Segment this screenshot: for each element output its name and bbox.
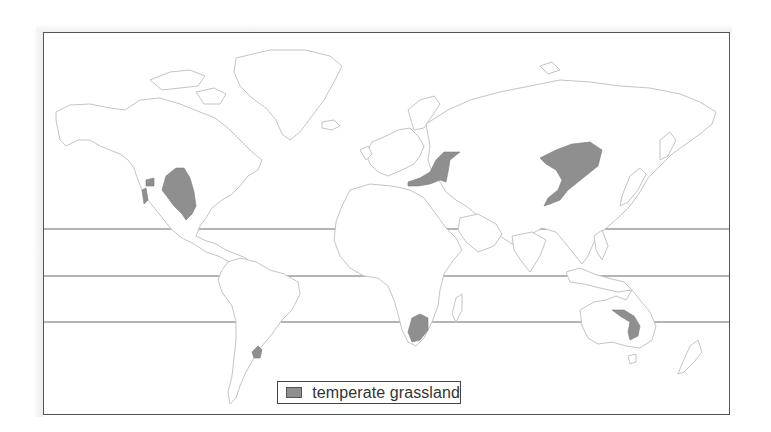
new-zealand-outline: [678, 340, 702, 374]
iceland-outline: [322, 120, 340, 130]
southeast-asia-islands-outline: [566, 268, 632, 292]
europe-outline: [366, 128, 424, 176]
world-map: [0, 0, 771, 432]
tasmania-outline: [628, 354, 636, 364]
arctic-islands-2-outline: [196, 88, 226, 104]
india-outline: [512, 232, 546, 272]
north-america-outline: [56, 98, 262, 266]
madagascar-outline: [452, 294, 462, 322]
novaya-zemlya-outline: [540, 62, 560, 74]
legend: temperate grassland: [277, 381, 461, 404]
continents: [56, 50, 716, 404]
grassland-legend-label: temperate grassland: [312, 384, 460, 402]
arctic-islands-outline: [150, 70, 205, 90]
philippines-outline: [594, 230, 608, 260]
grassland-legend-swatch: [286, 387, 302, 398]
australia-outline: [580, 290, 656, 348]
